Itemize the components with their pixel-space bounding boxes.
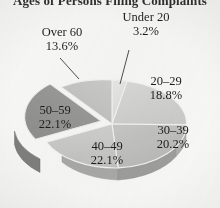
slice-label-under-20: Under 20 3.2% [104, 11, 188, 38]
slice-label-over-60: Over 60 13.6% [18, 26, 106, 53]
slice-label-50-59: 50–59 22.1% [20, 104, 90, 131]
slice-label-40-49-name: 40–49 [91, 139, 122, 153]
slice-label-20-29-pct: 18.8% [131, 89, 201, 103]
slice-label-30-39-pct: 20.2% [138, 138, 208, 152]
slice-label-over-60-name: Over 60 [42, 25, 83, 39]
slice-label-30-39-name: 30–39 [157, 123, 188, 137]
slice-label-30-39: 30–39 20.2% [138, 124, 208, 151]
slice-label-under-20-name: Under 20 [123, 10, 170, 24]
slice-label-50-59-name: 50–59 [39, 103, 70, 117]
leader-line-over-60 [60, 58, 79, 79]
slice-label-40-49: 40–49 22.1% [72, 140, 142, 167]
pie-chart-figure: Ages of Persons Filing Complaints [0, 0, 220, 208]
slice-label-under-20-pct: 3.2% [104, 25, 188, 39]
slice-label-20-29: 20–29 18.8% [131, 75, 201, 102]
slice-label-over-60-pct: 13.6% [18, 40, 106, 54]
slice-label-20-29-name: 20–29 [150, 74, 181, 88]
slice-label-40-49-pct: 22.1% [72, 154, 142, 168]
slice-label-50-59-pct: 22.1% [20, 118, 90, 132]
leader-line-under-20 [120, 50, 129, 84]
